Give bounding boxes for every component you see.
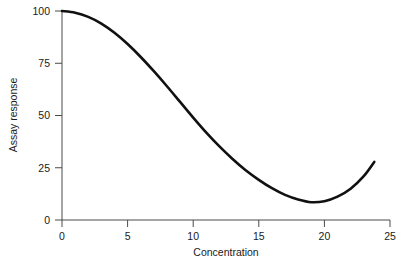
x-tick-label-10: 10 [187,230,199,242]
x-axis-title: Concentration [193,246,259,258]
x-tick-label-0: 0 [59,230,65,242]
y-axis-title: Assay response [7,77,19,152]
y-tick-label-0: 0 [44,214,50,226]
assay-response-vs-concentration-chart: 0 25 50 75 100 0 5 10 15 20 25 Concentra… [0,0,407,261]
x-tick-label-15: 15 [253,230,265,242]
y-tick-label-50: 50 [38,109,50,121]
assay-response-curve [62,11,374,202]
x-tick-label-20: 20 [319,230,331,242]
y-tick-label-75: 75 [38,57,50,69]
chart-figure: 0 25 50 75 100 0 5 10 15 20 25 Concentra… [0,0,407,261]
y-axis-ticks [55,11,62,220]
x-tick-label-5: 5 [125,230,131,242]
y-tick-label-100: 100 [32,5,50,17]
x-tick-label-25: 25 [384,230,396,242]
y-tick-label-25: 25 [38,162,50,174]
x-axis-ticks [62,220,390,227]
